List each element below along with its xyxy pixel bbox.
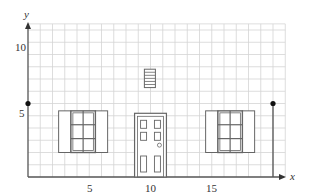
x-tick-label-10: 10 xyxy=(145,183,156,194)
y-tick-label-5: 5 xyxy=(19,108,25,119)
attic-vent xyxy=(144,69,155,87)
y-tick-label-10: 10 xyxy=(15,42,26,53)
right-window xyxy=(206,111,255,153)
door-knob-icon xyxy=(157,143,161,147)
x-tick-label-5: 5 xyxy=(87,183,93,194)
x-tick-label-15: 15 xyxy=(206,183,217,194)
shutter-left xyxy=(59,111,71,153)
left-window xyxy=(59,111,108,153)
left-wall-point xyxy=(25,101,30,106)
y-axis-arrow-icon xyxy=(25,22,31,29)
shutter-left xyxy=(206,111,218,153)
y-axis-label: y xyxy=(24,9,29,20)
shutter-right xyxy=(95,111,107,153)
coordinate-plane xyxy=(0,0,309,195)
shutter-right xyxy=(242,111,254,153)
door xyxy=(135,113,167,177)
house-drawing xyxy=(25,69,275,177)
right-wall-point xyxy=(270,101,275,106)
x-axis-label: x xyxy=(290,171,295,182)
